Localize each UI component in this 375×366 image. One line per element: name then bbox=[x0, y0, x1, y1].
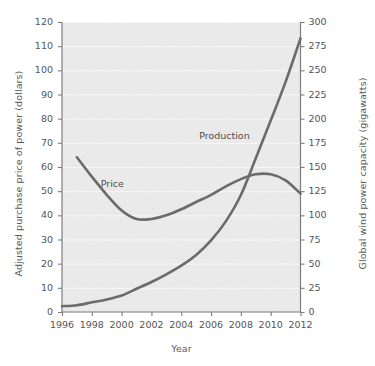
tick-label: 100 bbox=[309, 209, 339, 220]
tick-label: 40 bbox=[23, 209, 53, 220]
tick-label: 10 bbox=[23, 282, 53, 293]
tick-label: 300 bbox=[309, 16, 339, 27]
tick-label: 50 bbox=[23, 185, 53, 196]
tick-label: 200 bbox=[309, 113, 339, 124]
tick-label: 80 bbox=[23, 113, 53, 124]
tick-label: 0 bbox=[23, 306, 53, 317]
x-axis-title: Year bbox=[62, 343, 301, 354]
series-label-production: Production bbox=[199, 130, 250, 141]
tick-label: 0 bbox=[309, 306, 339, 317]
paper-texture bbox=[62, 22, 301, 312]
tick-label: 90 bbox=[23, 89, 53, 100]
y-axis-left-title: Adjusted purchase price of power (dollar… bbox=[13, 44, 24, 304]
tick-label: 70 bbox=[23, 137, 53, 148]
tick-label: 275 bbox=[309, 40, 339, 51]
tick-label: 25 bbox=[309, 282, 339, 293]
chart-figure: 0102030405060708090100110120 02550751001… bbox=[0, 0, 375, 366]
tick-label: 110 bbox=[23, 40, 53, 51]
tick-label: 20 bbox=[23, 258, 53, 269]
tick-label: 175 bbox=[309, 137, 339, 148]
y-axis-right-title: Global wind power capacity (gigawatts) bbox=[357, 44, 368, 304]
tick-label: 60 bbox=[23, 161, 53, 172]
tick-label: 30 bbox=[23, 234, 53, 245]
tick-label: 250 bbox=[309, 64, 339, 75]
tick-label: 150 bbox=[309, 161, 339, 172]
series-label-price: Price bbox=[101, 178, 124, 189]
tick-label: 2012 bbox=[281, 319, 321, 330]
tick-label: 100 bbox=[23, 64, 53, 75]
tick-label: 125 bbox=[309, 185, 339, 196]
tick-label: 225 bbox=[309, 89, 339, 100]
tick-label: 75 bbox=[309, 234, 339, 245]
tick-label: 120 bbox=[23, 16, 53, 27]
tick-label: 50 bbox=[309, 258, 339, 269]
